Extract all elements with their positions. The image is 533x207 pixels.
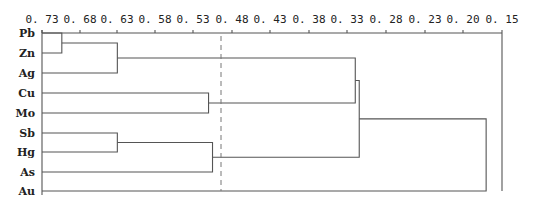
leaf-label-cu: Cu: [18, 87, 35, 100]
tick-label: 0. 58: [138, 13, 171, 26]
tick-label: 0. 23: [408, 13, 441, 26]
tick-label: 0. 28: [369, 13, 402, 26]
tick-label: 0. 48: [215, 13, 248, 26]
leaf-label-as: As: [19, 166, 35, 179]
tick-label: 0. 15: [485, 13, 518, 26]
tick-label: 0. 73: [25, 13, 58, 26]
tick-label: 0. 38: [292, 13, 325, 26]
merge-link: [42, 133, 117, 152]
tick-label: 0. 53: [176, 13, 209, 26]
tick-label: 0. 63: [100, 13, 133, 26]
leaf-label-sb: Sb: [19, 127, 35, 140]
merge-link: [42, 143, 213, 173]
leaf-label-hg: Hg: [17, 146, 35, 159]
merge-link: [117, 58, 355, 103]
tick-label: 0. 20: [446, 13, 479, 26]
merge-link: [42, 93, 209, 113]
leaf-label-zn: Zn: [19, 47, 35, 60]
leaf-labels: PbZnAgCuMoSbHgAsAu: [15, 27, 35, 198]
tick-label: 0. 68: [63, 13, 96, 26]
tick-label: 0. 33: [330, 13, 363, 26]
leaf-label-ag: Ag: [18, 67, 36, 80]
axis-ticks: 0. 730. 680. 630. 580. 530. 480. 430. 38…: [25, 13, 518, 33]
leaf-label-au: Au: [17, 185, 35, 198]
leaf-label-pb: Pb: [19, 27, 35, 40]
leaf-label-mo: Mo: [15, 107, 35, 120]
merge-link: [213, 81, 360, 158]
merge-link: [42, 43, 117, 73]
dendrogram-chart: 0. 730. 680. 630. 580. 530. 480. 430. 38…: [0, 0, 533, 207]
tick-label: 0. 43: [253, 13, 286, 26]
dendrogram-links: [42, 33, 486, 191]
merge-link: [42, 33, 62, 53]
merge-link: [42, 119, 486, 191]
